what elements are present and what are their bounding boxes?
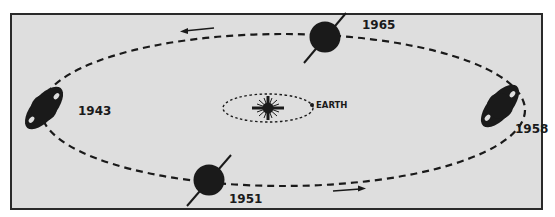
sun-star-icon — [252, 96, 284, 120]
saturn-orbit-diagram: EARTH 1965 1951 1943 1958 — [0, 0, 555, 217]
arrow-left-icon — [180, 28, 214, 34]
earth-dot — [310, 103, 314, 107]
year-label-1943: 1943 — [78, 104, 111, 118]
year-label-1958: 1958 — [515, 122, 548, 136]
arrow-right-icon — [333, 186, 366, 192]
saturn-orbit-path — [41, 34, 525, 186]
year-label-1951: 1951 — [229, 192, 262, 206]
earth-label: EARTH — [316, 100, 347, 110]
year-label-1965: 1965 — [362, 18, 395, 32]
saturn-1965-icon — [304, 13, 346, 63]
saturn-1943-icon — [17, 80, 70, 137]
saturn-1951-icon — [187, 155, 231, 206]
